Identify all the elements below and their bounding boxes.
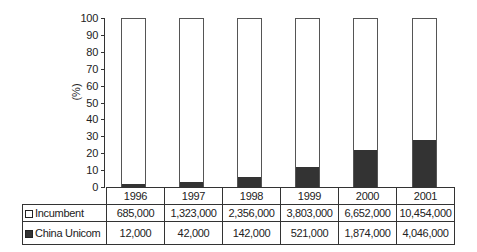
y-tick-mark: [101, 35, 105, 36]
bar-segment-china-unicom: [238, 177, 261, 187]
bar-1997: [179, 18, 204, 188]
table-cell: 521,000: [281, 222, 339, 245]
legend-entry-china-unicom: China Unicom: [23, 222, 107, 245]
bar-1999: [295, 18, 320, 188]
y-tick-label: 100: [68, 12, 98, 24]
y-tick-mark: [101, 18, 105, 19]
y-tick-label: 30: [68, 130, 98, 142]
table-cell: 42,000: [165, 222, 223, 245]
year-cell: 1999: [281, 188, 339, 205]
y-tick-mark: [101, 86, 105, 87]
year-cell: 2001: [397, 188, 455, 205]
y-tick-label: 80: [68, 46, 98, 58]
y-tick-mark: [101, 103, 105, 104]
year-cell: 1996: [107, 188, 165, 205]
y-tick-mark: [101, 119, 105, 120]
y-tick-mark: [101, 69, 105, 70]
table-cell: 4,046,000: [397, 222, 455, 245]
bar-2001: [412, 18, 437, 188]
y-tick-mark: [101, 153, 105, 154]
data-table: 1996 1997 1998 1999 2000 2001 Incumbent …: [22, 187, 455, 245]
y-tick-mark: [101, 136, 105, 137]
table-cell: 1,323,000: [165, 205, 223, 222]
table-row-incumbent: Incumbent 685,000 1,323,000 2,356,000 3,…: [23, 205, 455, 222]
bar-segment-china-unicom: [354, 150, 377, 187]
table-cell: 1,874,000: [339, 222, 397, 245]
table-header-row: 1996 1997 1998 1999 2000 2001: [23, 188, 455, 205]
y-tick-label: 90: [68, 29, 98, 41]
table-cell: 6,652,000: [339, 205, 397, 222]
legend-swatch-black-icon: [25, 230, 33, 238]
y-tick-mark: [101, 52, 105, 53]
y-tick-label: 20: [68, 147, 98, 159]
y-tick-label: 60: [68, 80, 98, 92]
year-cell: 2000: [339, 188, 397, 205]
table-cell: 685,000: [107, 205, 165, 222]
bar-2000: [353, 18, 378, 188]
table-cell: 10,454,000: [397, 205, 455, 222]
bar-1998: [237, 18, 262, 188]
y-tick-label: 10: [68, 164, 98, 176]
legend-swatch-white-icon: [25, 210, 33, 218]
table-corner: [23, 188, 107, 205]
legend-label: China Unicom: [35, 227, 100, 239]
year-cell: 1998: [223, 188, 281, 205]
y-tick-label: 70: [68, 63, 98, 75]
table-row-china-unicom: China Unicom 12,000 42,000 142,000 521,0…: [23, 222, 455, 245]
y-tick-mark: [101, 170, 105, 171]
y-tick-label: 50: [68, 97, 98, 109]
table-cell: 142,000: [223, 222, 281, 245]
bar-1996: [121, 18, 146, 188]
table-cell: 3,803,000: [281, 205, 339, 222]
table-cell: 2,356,000: [223, 205, 281, 222]
table-cell: 12,000: [107, 222, 165, 245]
legend-entry-incumbent: Incumbent: [23, 205, 107, 222]
legend-label: Incumbent: [35, 207, 84, 219]
y-tick-label: 40: [68, 113, 98, 125]
year-cell: 1997: [165, 188, 223, 205]
bar-segment-china-unicom: [296, 167, 319, 187]
bar-segment-china-unicom: [413, 140, 436, 187]
